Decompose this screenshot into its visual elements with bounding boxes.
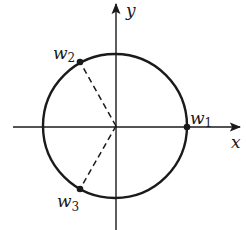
label-w1-main: w	[190, 108, 205, 128]
unit-circle	[43, 54, 187, 198]
label-w3-main: w	[57, 191, 72, 211]
label-w1: w1	[190, 108, 212, 130]
dashed-radius-w2	[80, 62, 116, 126]
y-axis-label: y	[125, 0, 136, 20]
point-w2	[77, 59, 84, 66]
label-w2: w2	[53, 43, 75, 65]
x-axis-label: x	[231, 132, 241, 152]
label-w2-sub: 2	[68, 51, 76, 65]
label-w1-sub: 1	[205, 116, 213, 130]
dashed-radius-w3	[80, 126, 116, 189]
point-w3	[77, 186, 84, 193]
label-w3: w3	[57, 191, 79, 214]
label-w3-sub: 3	[72, 200, 80, 214]
label-w2-main: w	[53, 43, 68, 63]
roots-of-unity-diagram: y x w1 w2 w3	[0, 0, 246, 230]
